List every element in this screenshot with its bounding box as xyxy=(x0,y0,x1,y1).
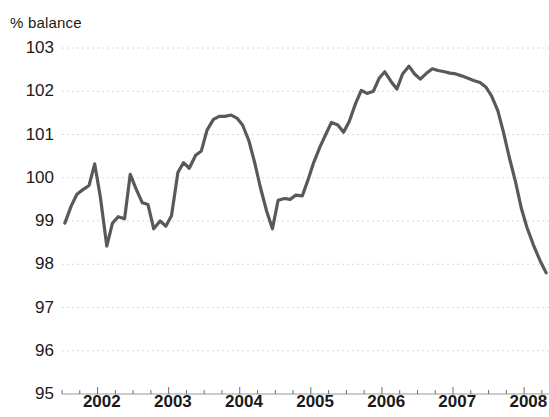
y-axis-tick-label: 99 xyxy=(8,211,54,231)
data-series-line xyxy=(65,66,546,273)
y-axis-tick-label: 95 xyxy=(8,384,54,404)
y-axis-tick-label: 96 xyxy=(8,341,54,361)
y-axis-tick-label: 98 xyxy=(8,254,54,274)
y-axis-tick-labels: 1031021011009998979695 xyxy=(6,0,54,417)
y-axis-tick-label: 102 xyxy=(8,81,54,101)
x-axis-tick-label: 2006 xyxy=(367,392,405,412)
chart-container: % balance 1031021011009998979695 2002200… xyxy=(0,0,549,417)
y-axis-tick-label: 103 xyxy=(8,38,54,58)
y-axis-tick-label: 100 xyxy=(8,168,54,188)
chart-plot-area xyxy=(0,0,549,417)
x-axis-tick-label: 2002 xyxy=(83,392,121,412)
x-axis-tick-label: 2005 xyxy=(296,392,334,412)
x-axis-tick-label: 2008 xyxy=(509,392,547,412)
x-axis-tick-label: 2003 xyxy=(154,392,192,412)
y-axis-tick-label: 101 xyxy=(8,125,54,145)
y-axis-tick-label: 97 xyxy=(8,298,54,318)
x-axis-tick-label: 2004 xyxy=(225,392,263,412)
x-axis-tick-label: 2007 xyxy=(438,392,476,412)
